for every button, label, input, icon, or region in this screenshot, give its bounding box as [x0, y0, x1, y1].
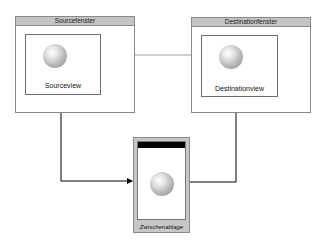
- clipboard-titlebar: [138, 142, 185, 148]
- clipboard-label: Zwischenablage: [134, 224, 189, 230]
- sphere-icon: [150, 172, 174, 196]
- destination-view: Destinationview: [201, 35, 278, 97]
- source-view: Sourceview: [25, 34, 101, 95]
- source-view-label: Sourceview: [26, 82, 100, 89]
- sphere-icon: [219, 45, 243, 69]
- source-window: Sourcefenster Sourceview: [15, 16, 135, 113]
- clipboard-content: [137, 141, 186, 220]
- destination-window: Destinationfenster Destinationview: [191, 17, 311, 113]
- destination-view-label: Destinationview: [202, 85, 277, 92]
- source-window-title: Sourcefenster: [16, 17, 134, 26]
- clipboard-window: Zwischenablage: [133, 137, 190, 233]
- destination-window-title: Destinationfenster: [192, 18, 310, 27]
- sphere-icon: [43, 44, 67, 68]
